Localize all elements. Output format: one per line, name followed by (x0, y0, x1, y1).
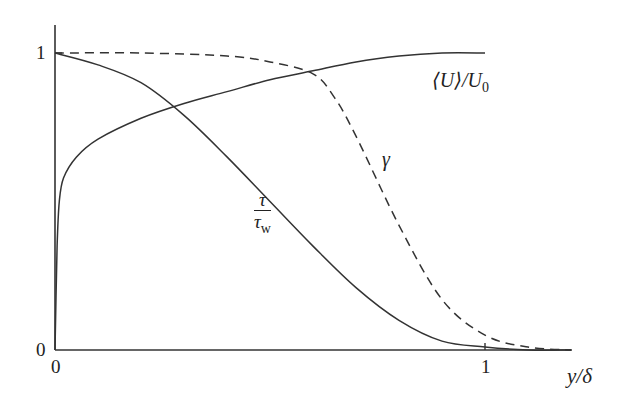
chart-canvas (0, 0, 627, 396)
plot-area (55, 53, 571, 350)
mean-velocity-label-sub: 0 (482, 80, 489, 95)
mean-velocity-label-text: ⟨U⟩/U (432, 69, 482, 91)
y-tick-label-0: 0 (36, 339, 46, 361)
shear-stress-label: τ τw (254, 190, 271, 240)
intermittency-label: γ (382, 148, 390, 171)
shear-stress-denominator: τw (254, 211, 271, 240)
shear-stress-numerator: τ (254, 190, 271, 211)
series-line-1 (55, 53, 571, 350)
series-line-2 (55, 53, 571, 350)
y-tick-label-1: 1 (36, 42, 46, 64)
x-tick-label-1: 1 (481, 356, 491, 378)
shear-stress-den-sub: w (261, 221, 271, 236)
x-tick-label-0: 0 (51, 356, 61, 378)
x-axis-label: y/δ (567, 364, 592, 389)
shear-stress-den-symbol: τ (254, 211, 261, 232)
mean-velocity-label: ⟨U⟩/U0 (432, 68, 489, 96)
